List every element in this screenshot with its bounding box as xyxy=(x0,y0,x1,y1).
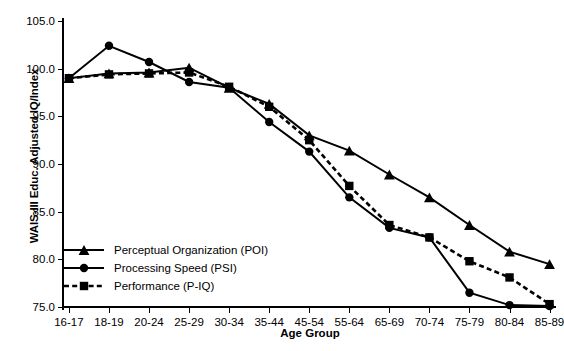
data-point-triangle xyxy=(344,146,355,156)
x-tick-label: 25-29 xyxy=(174,316,203,328)
series-triangle xyxy=(64,63,555,269)
legend-symbol-square-icon xyxy=(62,277,106,295)
data-point-triangle xyxy=(544,259,555,269)
data-point-triangle xyxy=(424,192,435,202)
x-tick-label: 16-17 xyxy=(54,316,83,328)
x-tick-label: 75-79 xyxy=(455,316,484,328)
legend-item[interactable]: Processing Speed (PSI) xyxy=(62,259,268,277)
x-tick-label: 55-64 xyxy=(335,316,364,328)
y-tick-label: 100.0 xyxy=(26,63,55,75)
x-tick xyxy=(389,307,390,313)
legend-label: Perceptual Organization (POI) xyxy=(114,244,268,256)
y-tick-label: 80.0 xyxy=(33,253,55,265)
data-point-square xyxy=(505,273,513,281)
x-tick xyxy=(309,307,310,313)
data-point-circle xyxy=(345,193,353,201)
data-point-circle xyxy=(305,147,313,155)
legend-symbol-circle-icon xyxy=(62,259,106,277)
y-tick-label: 105.0 xyxy=(26,15,55,27)
data-point-circle xyxy=(80,264,88,272)
data-point-circle xyxy=(265,118,273,126)
x-tick xyxy=(469,307,470,313)
data-point-square xyxy=(65,74,73,82)
data-point-triangle xyxy=(384,170,395,180)
x-tick xyxy=(189,307,190,313)
x-tick xyxy=(229,307,230,313)
legend-item[interactable]: Perceptual Organization (POI) xyxy=(62,241,268,259)
legend-label: Performance (P-IQ) xyxy=(114,280,214,292)
data-point-circle xyxy=(105,42,113,50)
series-line xyxy=(69,68,550,264)
data-point-circle xyxy=(505,301,513,309)
x-tick-label: 30-34 xyxy=(214,316,243,328)
data-point-square xyxy=(465,257,473,265)
x-tick-label: 35-44 xyxy=(254,316,283,328)
x-tick xyxy=(69,307,70,313)
x-tick xyxy=(269,307,270,313)
legend-symbol-triangle-icon xyxy=(62,241,106,259)
data-point-square xyxy=(545,300,553,308)
x-tick-label: 65-69 xyxy=(375,316,404,328)
data-point-square xyxy=(305,136,313,144)
data-point-square xyxy=(225,83,233,91)
data-point-square xyxy=(345,182,353,190)
data-point-circle xyxy=(145,58,153,66)
x-tick xyxy=(149,307,150,313)
data-point-circle xyxy=(465,289,473,297)
x-axis-label: Age Group xyxy=(64,327,556,339)
legend-item[interactable]: Performance (P-IQ) xyxy=(62,277,268,295)
chart-legend: Perceptual Organization (POI)Processing … xyxy=(62,241,268,295)
data-point-square xyxy=(145,69,153,77)
y-tick-label: 85.0 xyxy=(33,206,55,218)
y-tick-label: 90.0 xyxy=(33,158,55,170)
data-point-circle xyxy=(185,78,193,86)
data-point-square xyxy=(385,221,393,229)
x-tick-label: 18-19 xyxy=(94,316,123,328)
x-tick-label: 80-84 xyxy=(495,316,524,328)
legend-label: Processing Speed (PSI) xyxy=(114,262,237,274)
y-tick-label: 95.0 xyxy=(33,110,55,122)
data-point-square xyxy=(105,70,113,78)
x-tick xyxy=(109,307,110,313)
data-point-square xyxy=(265,103,273,111)
x-tick-label: 20-24 xyxy=(134,316,163,328)
x-tick xyxy=(349,307,350,313)
data-point-square xyxy=(80,282,88,290)
x-tick-label: 70-74 xyxy=(415,316,444,328)
data-point-square xyxy=(425,233,433,241)
x-tick-label: 45-54 xyxy=(295,316,324,328)
y-tick xyxy=(58,307,64,308)
x-tick xyxy=(429,307,430,313)
data-point-square xyxy=(185,68,193,76)
y-tick-label: 75.0 xyxy=(33,301,55,313)
x-tick-label: 85-89 xyxy=(535,316,564,328)
